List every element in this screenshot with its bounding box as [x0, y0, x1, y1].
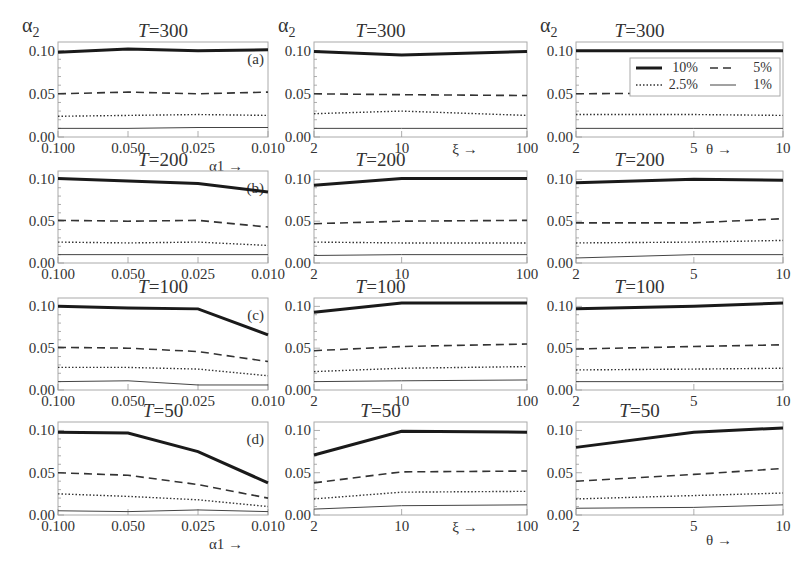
- y-tick-label: 0.10: [547, 43, 573, 59]
- series-line-1pct: [576, 505, 783, 508]
- series-line-5pct: [58, 347, 268, 361]
- y-tick-label: 0.00: [547, 255, 573, 271]
- panel-10: 0.000.050.100.1000.0500.0250.010T=50α1 →…: [29, 400, 285, 552]
- panel-5: 0.000.050.10210100T=200: [285, 149, 539, 282]
- y-tick-label: 0.00: [285, 255, 311, 271]
- y-tick-label: 0.10: [29, 298, 55, 314]
- series-line-2-5pct: [58, 494, 268, 507]
- x-axis-label: ξ →: [452, 519, 477, 535]
- legend: 10%5%2.5%1%: [630, 58, 780, 96]
- series-line-10pct: [576, 179, 783, 182]
- x-tick-label: 5: [690, 140, 698, 156]
- x-tick-label: 2: [572, 393, 580, 409]
- series-line-1pct: [58, 381, 268, 385]
- panel-6: 0.000.050.102510T=200: [547, 149, 791, 282]
- series-line-10pct: [314, 303, 527, 312]
- plot-frame: [314, 298, 527, 390]
- x-tick-label: 5: [690, 266, 698, 282]
- x-tick-label: 100: [516, 266, 539, 282]
- panel-title: T=300: [138, 20, 188, 41]
- legend-label: 1%: [753, 77, 772, 92]
- y-tick-label: 0.10: [547, 298, 573, 314]
- figure-grid: 0.000.050.100.1000.0500.0250.010T=300α2α…: [0, 0, 812, 567]
- x-axis-label: ξ →: [452, 141, 477, 157]
- x-tick-label: 0.010: [251, 393, 285, 409]
- series-line-10pct: [58, 306, 268, 334]
- y-tick-label: 0.10: [547, 422, 573, 438]
- y-axis-label: α2: [540, 14, 557, 40]
- y-axis-label: α2: [278, 14, 295, 40]
- plot-frame: [576, 298, 783, 390]
- y-tick-label: 0.00: [285, 507, 311, 523]
- y-tick-label: 0.05: [29, 86, 55, 102]
- plot-frame: [58, 298, 268, 390]
- legend-label: 5%: [753, 60, 772, 75]
- y-tick-label: 0.05: [547, 213, 573, 229]
- x-tick-label: 0.025: [181, 393, 215, 409]
- series-line-10pct: [314, 179, 527, 186]
- series-line-2-5pct: [314, 111, 527, 115]
- plot-frame: [58, 171, 268, 263]
- series-line-1pct: [58, 510, 268, 512]
- series-line-10pct: [314, 431, 527, 455]
- x-tick-label: 0.025: [181, 518, 215, 534]
- series-line-5pct: [314, 471, 527, 483]
- series-line-10pct: [314, 52, 527, 55]
- plot-frame: [314, 42, 527, 137]
- plot-frame: [576, 422, 783, 515]
- panel-label: (a): [247, 51, 264, 68]
- x-tick-label: 0.100: [41, 518, 75, 534]
- plot-frame: [314, 171, 527, 263]
- x-tick-label: 0.010: [251, 140, 285, 156]
- series-line-1pct: [314, 380, 527, 382]
- series-line-10pct: [58, 49, 268, 52]
- y-tick-label: 0.05: [547, 465, 573, 481]
- x-tick-label: 100: [516, 393, 539, 409]
- panel-title: T=50: [143, 400, 183, 421]
- y-tick-label: 0.05: [29, 213, 55, 229]
- y-tick-label: 0.10: [285, 43, 311, 59]
- series-line-5pct: [576, 219, 783, 223]
- plot-frame: [58, 42, 268, 137]
- x-tick-label: 100: [516, 140, 539, 156]
- series-line-10pct: [576, 303, 783, 309]
- series-line-10pct: [58, 179, 268, 192]
- panel-11: 0.000.050.10210100T=50ξ →: [285, 400, 539, 535]
- y-tick-label: 0.05: [547, 340, 573, 356]
- series-line-5pct: [58, 220, 268, 227]
- x-tick-label: 10: [776, 266, 791, 282]
- x-tick-label: 2: [310, 518, 318, 534]
- y-tick-label: 0.05: [29, 340, 55, 356]
- x-tick-label: 2: [310, 393, 318, 409]
- x-tick-label: 10: [776, 140, 791, 156]
- panel-title: T=300: [356, 20, 406, 41]
- y-tick-label: 0.00: [285, 129, 311, 145]
- y-tick-label: 0.00: [547, 129, 573, 145]
- series-line-5pct: [58, 92, 268, 94]
- x-tick-label: 2: [572, 518, 580, 534]
- y-tick-label: 0.10: [547, 171, 573, 187]
- panel-label: (d): [247, 431, 265, 448]
- y-tick-label: 0.10: [285, 422, 311, 438]
- y-tick-label: 0.10: [29, 43, 55, 59]
- y-axis-label: α2: [22, 14, 39, 40]
- series-line-10pct: [576, 428, 783, 447]
- panel-12: 0.000.050.102510T=50θ →: [547, 400, 791, 548]
- x-tick-label: 2: [310, 140, 318, 156]
- y-tick-label: 0.10: [285, 171, 311, 187]
- y-tick-label: 0.05: [285, 340, 311, 356]
- panel-2: 0.000.050.10210100T=300α2ξ →: [278, 14, 538, 157]
- panel-title: T=50: [360, 400, 400, 421]
- x-tick-label: 2: [572, 140, 580, 156]
- x-tick-label: 5: [690, 393, 698, 409]
- series-line-5pct: [314, 344, 527, 351]
- x-axis-label: θ →: [706, 532, 732, 548]
- series-line-1pct: [58, 128, 268, 129]
- series-line-2-5pct: [314, 242, 527, 243]
- x-axis-label: α1 →: [209, 536, 243, 552]
- x-tick-label: 100: [516, 518, 539, 534]
- x-axis-label: α1 →: [209, 158, 243, 174]
- y-tick-label: 0.05: [285, 213, 311, 229]
- panel-title: T=100: [615, 276, 665, 297]
- x-tick-label: 2: [572, 266, 580, 282]
